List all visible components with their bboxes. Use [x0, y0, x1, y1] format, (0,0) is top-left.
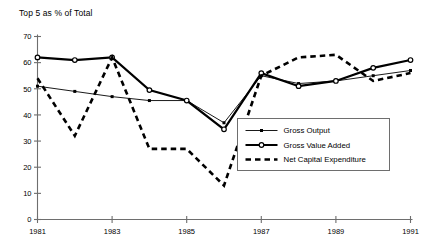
legend-label: Net Capital Expenditure [284, 155, 366, 164]
legend-label: Gross Output [284, 126, 331, 135]
y-tick-label: 40 [23, 111, 31, 120]
x-tick-label: 1987 [253, 227, 270, 236]
chart-legend: Gross OutputGross Value AddedNet Capital… [238, 119, 390, 171]
y-tick-label: 70 [23, 32, 31, 41]
x-axis: 198119831985198719891991 [29, 216, 419, 236]
y-axis: 010203040506070 [23, 32, 41, 224]
y-tick-label: 0 [27, 215, 31, 224]
y-tick-label: 30 [23, 137, 31, 146]
y-tick-label: 20 [23, 163, 31, 172]
y-tick-label: 60 [23, 58, 31, 67]
x-tick-label: 1983 [104, 227, 121, 236]
series-gross-output [36, 69, 412, 124]
x-tick-label: 1985 [178, 227, 195, 236]
legend-label: Gross Value Added [284, 141, 351, 150]
x-tick-label: 1991 [402, 227, 419, 236]
x-tick-label: 1981 [29, 227, 46, 236]
chart-container: Top 5 as % of Total 010203040506070 1981… [0, 0, 431, 246]
x-tick-label: 1989 [328, 227, 345, 236]
y-tick-label: 10 [23, 189, 31, 198]
line-chart-plot: 010203040506070 198119831985198719891991… [0, 0, 431, 246]
y-tick-label: 50 [23, 85, 31, 94]
